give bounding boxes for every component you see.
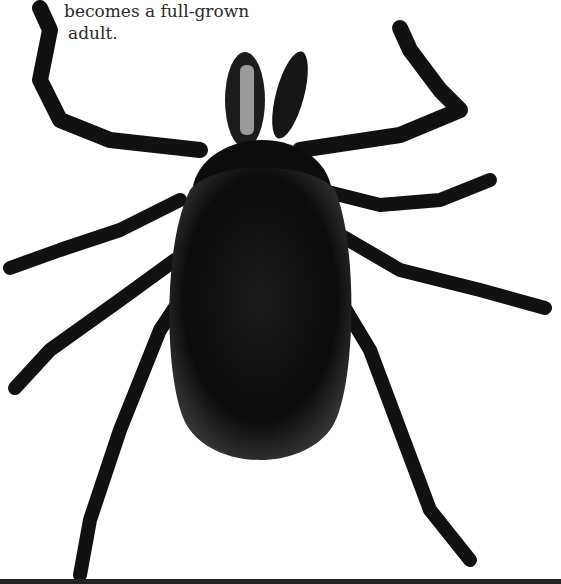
tick-photo	[0, 0, 561, 584]
tick-body	[169, 48, 351, 460]
page-edge	[0, 579, 561, 584]
